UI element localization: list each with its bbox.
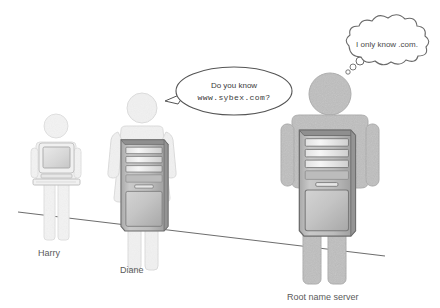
thought-dot-medium	[350, 64, 356, 70]
keyboard-icon	[33, 179, 80, 185]
dns-resolution-diagram: Harry Diane	[0, 0, 440, 308]
crt-monitor-icon	[39, 143, 74, 178]
speech-bubble: Do you know www.sybex.com?	[165, 67, 292, 115]
speech-line-2: www.sybex.com?	[198, 93, 271, 102]
tower-pc-icon-root	[299, 130, 355, 236]
thought-line-1: I only know .com.	[356, 40, 418, 49]
diagram-canvas: Harry Diane	[0, 0, 440, 308]
person-harry: Harry	[31, 114, 81, 258]
tower-pc-icon-diane	[121, 140, 168, 231]
label-diane: Diane	[120, 265, 144, 275]
thought-bubble: I only know .com.	[346, 15, 429, 74]
thought-dot-small	[346, 70, 350, 74]
label-root-name-server: Root name server	[287, 292, 359, 302]
person-diane: Diane	[108, 93, 176, 275]
label-harry: Harry	[38, 248, 60, 258]
speech-line-1: Do you know	[211, 81, 257, 90]
person-root-name-server: Root name server	[281, 73, 379, 302]
